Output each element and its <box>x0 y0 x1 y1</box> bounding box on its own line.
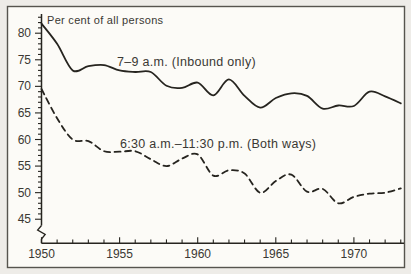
y-tick-label: 80 <box>18 26 32 40</box>
series-label-inbound: 7–9 a.m. (Inbound only) <box>117 55 256 69</box>
y-axis-title: Per cent of all persons <box>47 14 163 26</box>
x-tick-label: 1960 <box>184 247 211 261</box>
y-tick-label: 75 <box>18 53 32 67</box>
y-tick-label: 65 <box>18 106 32 120</box>
y-tick-label: 60 <box>18 133 32 147</box>
x-tick-label: 1965 <box>262 247 289 261</box>
y-tick-label: 55 <box>18 159 32 173</box>
x-tick-label: 1970 <box>341 247 368 261</box>
y-tick-label: 50 <box>18 186 32 200</box>
y-tick-label: 45 <box>18 212 32 226</box>
x-tick-label: 1950 <box>28 247 55 261</box>
series-label-bothways: 6:30 a.m.–11:30 p.m. (Both ways) <box>120 137 316 151</box>
page-container: 455055606570758019501955196019651970 Per… <box>0 0 411 274</box>
y-tick-label: 70 <box>18 79 32 93</box>
x-tick-label: 1955 <box>106 247 133 261</box>
